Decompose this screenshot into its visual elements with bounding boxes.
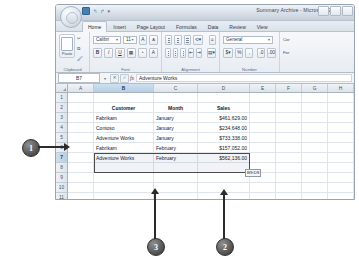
cell-g1[interactable]	[302, 93, 328, 103]
cell-a9[interactable]	[68, 173, 94, 183]
align-middle-button[interactable]	[174, 35, 181, 45]
column-header-e[interactable]: E	[250, 84, 276, 92]
column-header-d[interactable]: D	[198, 84, 250, 92]
cell-d1[interactable]	[198, 93, 250, 103]
cell-f7[interactable]	[276, 153, 302, 163]
align-left-button[interactable]	[165, 48, 171, 58]
cell-c5[interactable]: January	[154, 133, 198, 143]
cell-h7[interactable]	[328, 153, 354, 163]
column-header-h[interactable]: H	[328, 84, 354, 92]
number-format-combo[interactable]: General ▾	[223, 36, 273, 44]
cell-g10[interactable]	[302, 183, 328, 193]
cell-e6[interactable]	[250, 143, 276, 153]
decrease-indent-button[interactable]: ⇤	[188, 48, 194, 58]
orientation-button[interactable]: ⟲▾	[193, 35, 202, 45]
cell-e1[interactable]	[250, 93, 276, 103]
italic-button[interactable]: I	[104, 48, 113, 58]
borders-button[interactable]: ▦	[127, 48, 136, 58]
column-header-f[interactable]: F	[276, 84, 302, 92]
cell-c10[interactable]	[154, 183, 198, 193]
close-button[interactable]	[342, 6, 353, 16]
cell-h8[interactable]	[328, 163, 354, 173]
cell-h3[interactable]	[328, 113, 354, 123]
row-header-7[interactable]: 7	[56, 153, 67, 163]
shrink-font-button[interactable]: A	[149, 35, 158, 45]
cell-c2[interactable]: Month	[154, 103, 198, 113]
maximize-button[interactable]	[330, 6, 341, 16]
chevron-down-icon[interactable]: ▾	[116, 37, 118, 42]
cell-a7[interactable]	[68, 153, 94, 163]
cell-g7[interactable]	[302, 153, 328, 163]
office-button[interactable]	[60, 6, 82, 28]
formula-input[interactable]: Adventure Works	[136, 74, 352, 82]
cell-d4[interactable]: $234,648.00	[198, 123, 250, 133]
cell-e4[interactable]	[250, 123, 276, 133]
cell-g11[interactable]	[302, 193, 328, 200]
cell-e11[interactable]	[250, 193, 276, 200]
font-color-button[interactable]: A	[149, 48, 158, 58]
copy-icon[interactable]: ⧉	[77, 45, 83, 53]
cell-d6[interactable]: $157,052.00	[198, 143, 250, 153]
cell-c4[interactable]: January	[154, 123, 198, 133]
cell-g5[interactable]	[302, 133, 328, 143]
conditional-formatting-label[interactable]: Cor	[283, 36, 290, 44]
row-header-4[interactable]: 4	[56, 123, 67, 133]
cell-f11[interactable]	[276, 193, 302, 200]
quick-access-toolbar[interactable]: ↰ ↱ ▾	[82, 7, 110, 15]
cancel-icon[interactable]: ✕	[110, 74, 119, 83]
cell-a3[interactable]	[68, 113, 94, 123]
column-header-a[interactable]: A	[68, 84, 94, 92]
cell-a8[interactable]	[68, 163, 94, 173]
tab-formulas[interactable]: Formulas	[171, 22, 202, 32]
cell-b11[interactable]	[94, 193, 154, 200]
grow-font-button[interactable]: A	[139, 35, 148, 45]
paste-button[interactable]: Paste	[59, 34, 75, 58]
cell-f9[interactable]	[276, 173, 302, 183]
cell-h5[interactable]	[328, 133, 354, 143]
wrap-text-button[interactable]: ≡	[209, 35, 216, 45]
chevron-down-icon[interactable]: ▾	[268, 37, 270, 42]
cell-f1[interactable]	[276, 93, 302, 103]
cell-f8[interactable]	[276, 163, 302, 173]
align-top-button[interactable]	[165, 35, 172, 45]
cell-c1[interactable]	[154, 93, 198, 103]
column-header-g[interactable]: G	[302, 84, 328, 92]
column-header-c[interactable]: C	[154, 84, 198, 92]
cut-icon[interactable]: ✂	[77, 35, 83, 43]
increase-decimal-button[interactable]: .0	[257, 48, 265, 58]
comma-style-button[interactable]: ,	[245, 48, 253, 58]
cell-d2[interactable]: Sales	[198, 103, 250, 113]
align-right-button[interactable]	[180, 48, 186, 58]
chevron-down-icon[interactable]: ▾	[132, 37, 134, 42]
row-header-1[interactable]: 1	[56, 93, 67, 103]
tab-insert[interactable]: Insert	[108, 22, 131, 32]
font-name-combo[interactable]: Calibri ▾	[93, 36, 121, 44]
align-center-button[interactable]	[173, 48, 179, 58]
window-controls[interactable]	[318, 6, 353, 16]
row-header-8[interactable]: 8	[56, 163, 67, 173]
cell-c11[interactable]	[154, 193, 198, 200]
row-header-10[interactable]: 10	[56, 183, 67, 193]
column-header-b[interactable]: B	[94, 84, 154, 92]
chevron-down-icon[interactable]: ▾	[102, 76, 108, 81]
underline-button[interactable]: U	[115, 48, 124, 58]
cell-b4[interactable]: Contoso	[94, 123, 154, 133]
align-bottom-button[interactable]	[184, 35, 191, 45]
cell-c6[interactable]: February	[154, 143, 198, 153]
row-header-9[interactable]: 9	[56, 173, 67, 183]
cell-f5[interactable]	[276, 133, 302, 143]
cell-d9[interactable]	[198, 173, 250, 183]
cell-g6[interactable]	[302, 143, 328, 153]
accounting-format-button[interactable]: $▾	[223, 48, 233, 58]
name-box[interactable]: B7	[58, 73, 100, 83]
cell-e7[interactable]	[250, 153, 276, 163]
cell-g3[interactable]	[302, 113, 328, 123]
cell-g8[interactable]	[302, 163, 328, 173]
tab-review[interactable]: Review	[224, 22, 250, 32]
cell-e5[interactable]	[250, 133, 276, 143]
cell-g9[interactable]	[302, 173, 328, 183]
cell-h10[interactable]	[328, 183, 354, 193]
font-size-combo[interactable]: 11 ▾	[123, 36, 137, 44]
selection-range-box[interactable]	[94, 153, 250, 173]
fill-color-button[interactable]: ◔	[138, 48, 147, 58]
